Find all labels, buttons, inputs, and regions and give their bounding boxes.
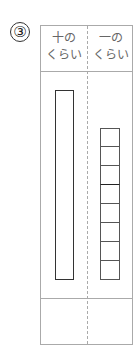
header-ones: 一の くらい xyxy=(88,30,134,64)
header-divider xyxy=(41,71,132,72)
problem-number-label: ③ xyxy=(13,23,26,41)
unit-cube xyxy=(100,166,120,185)
unit-cube xyxy=(100,185,120,204)
header-tens: 十の くらい xyxy=(41,30,87,64)
unit-cube xyxy=(100,242,120,261)
header-tens-line2: くらい xyxy=(41,47,87,64)
unit-cube xyxy=(100,147,120,166)
problem-number: ③ xyxy=(10,22,30,42)
ones-cube-stack xyxy=(100,128,120,280)
place-value-table: 十の くらい 一の くらい xyxy=(40,25,133,345)
ten-rod xyxy=(55,90,74,280)
header-tens-line1: 十の xyxy=(41,30,87,47)
header-ones-line1: 一の xyxy=(88,30,134,47)
answer-divider xyxy=(41,298,132,299)
unit-cube xyxy=(100,128,120,147)
unit-cube xyxy=(100,223,120,242)
unit-cube xyxy=(100,261,120,280)
unit-cube xyxy=(100,204,120,223)
header-ones-line2: くらい xyxy=(88,47,134,64)
column-divider xyxy=(87,26,88,344)
